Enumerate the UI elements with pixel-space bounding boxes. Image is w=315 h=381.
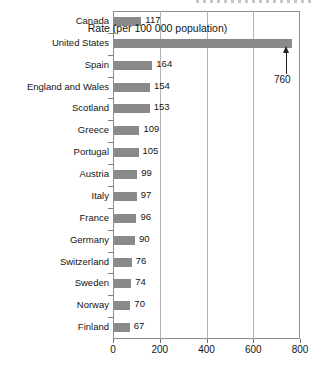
- bar-row[interactable]: Spain164: [0, 55, 315, 77]
- bar-value-label: 90: [139, 233, 150, 245]
- category-label: Scotland: [72, 102, 109, 113]
- y-axis-tick: [108, 230, 113, 231]
- y-axis-tick: [108, 295, 113, 296]
- bar[interactable]: [114, 170, 137, 179]
- bar-row[interactable]: United States: [0, 33, 315, 55]
- bar[interactable]: [114, 104, 150, 113]
- y-axis-tick: [108, 164, 113, 165]
- category-label: Norway: [77, 299, 109, 310]
- bar-row[interactable]: England and Wales154: [0, 77, 315, 99]
- category-label: England and Wales: [27, 81, 109, 92]
- category-label: Austria: [79, 168, 109, 179]
- category-label: Finland: [78, 321, 109, 332]
- y-axis-tick: [108, 273, 113, 274]
- bar-value-label: 164: [156, 58, 172, 70]
- category-label: Sweden: [75, 277, 109, 288]
- bar-row[interactable]: Scotland153: [0, 98, 315, 120]
- y-axis-tick: [108, 317, 113, 318]
- category-label: Spain: [85, 59, 109, 70]
- category-label: Switzerland: [60, 256, 109, 267]
- bar-value-label: 70: [134, 298, 145, 310]
- x-axis-title: Rate (per 100 000 population): [0, 22, 315, 35]
- x-axis-tick-400: [207, 339, 208, 343]
- bar[interactable]: [114, 301, 130, 310]
- bar-value-label: 105: [143, 145, 159, 157]
- bar-value-label: 97: [141, 189, 152, 201]
- united-states-value-callout: 760: [272, 44, 312, 94]
- y-axis-tick: [108, 142, 113, 143]
- bar[interactable]: [114, 61, 152, 70]
- callout-label: 760: [274, 74, 291, 86]
- bar-value-label: 154: [154, 80, 170, 92]
- bar-row[interactable]: Germany90: [0, 230, 315, 252]
- y-axis-tick: [108, 208, 113, 209]
- bar-row[interactable]: France96: [0, 208, 315, 230]
- bar-row[interactable]: Italy97: [0, 186, 315, 208]
- x-axis-tick-label: 0: [110, 344, 116, 356]
- bar-value-label: 67: [134, 320, 145, 332]
- x-axis-tick-800: [300, 339, 301, 343]
- y-axis-tick: [108, 77, 113, 78]
- x-axis-tick-0: [113, 339, 114, 343]
- category-label: Italy: [92, 190, 109, 201]
- y-axis-tick: [108, 252, 113, 253]
- bar-value-label: 74: [135, 276, 146, 288]
- bar-value-label: 76: [136, 255, 147, 267]
- x-axis-tick-label: 400: [198, 344, 215, 356]
- y-axis-tick: [108, 120, 113, 121]
- bar-value-label: 96: [140, 211, 151, 223]
- bar[interactable]: [114, 192, 137, 201]
- bar[interactable]: [114, 258, 132, 267]
- bar-row[interactable]: Greece109: [0, 120, 315, 142]
- bar[interactable]: [114, 323, 130, 332]
- x-axis-tick-label: 200: [151, 344, 168, 356]
- bar-row[interactable]: Finland67: [0, 317, 315, 339]
- y-axis-tick: [108, 55, 113, 56]
- x-axis-tick-label: 600: [245, 344, 262, 356]
- bar[interactable]: [114, 83, 150, 92]
- x-axis: 0200400600800: [0, 339, 315, 381]
- category-label: France: [79, 212, 109, 223]
- bar[interactable]: [114, 126, 139, 135]
- bar-row[interactable]: Sweden74: [0, 273, 315, 295]
- x-axis-tick-600: [253, 339, 254, 343]
- up-arrow-shaft: [286, 52, 287, 74]
- x-axis-tick-label: 800: [292, 344, 309, 356]
- bar[interactable]: [114, 214, 136, 223]
- y-axis-tick: [108, 186, 113, 187]
- bar-row[interactable]: Portugal105: [0, 142, 315, 164]
- category-label: United States: [52, 37, 109, 48]
- bar[interactable]: [114, 236, 135, 245]
- bar-row[interactable]: Switzerland76: [0, 252, 315, 274]
- bar-value-label: 99: [141, 167, 152, 179]
- bar[interactable]: [114, 279, 131, 288]
- bar-value-label: 109: [143, 123, 159, 135]
- y-axis-tick: [108, 98, 113, 99]
- category-label: Greece: [78, 124, 109, 135]
- x-axis-tick-200: [160, 339, 161, 343]
- category-label: Germany: [70, 234, 109, 245]
- category-label: Portugal: [74, 146, 109, 157]
- bar-row[interactable]: Norway70: [0, 295, 315, 317]
- bar-value-label: 153: [154, 101, 170, 113]
- bar[interactable]: [114, 148, 139, 157]
- bar-row[interactable]: Austria99: [0, 164, 315, 186]
- bar[interactable]: [114, 39, 292, 48]
- horizontal-bar-chart: Canada117United StatesSpain164England an…: [0, 0, 315, 381]
- bar-row-group: Canada117United StatesSpain164England an…: [0, 11, 315, 339]
